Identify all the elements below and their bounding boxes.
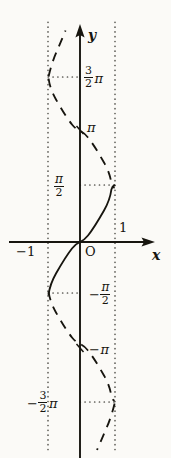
curve-arcsin-principal-solid bbox=[49, 185, 115, 294]
pi-symbol: π bbox=[95, 71, 104, 86]
y-tick-label-neg-three-halves-pi: − 3 2 π bbox=[27, 391, 57, 415]
fraction-three-over-two: 3 2 bbox=[38, 390, 47, 414]
pi-symbol: π bbox=[100, 342, 109, 357]
pi-symbol: π bbox=[49, 396, 58, 411]
x-tick-label-pos-one: 1 bbox=[119, 221, 127, 234]
curve-lower-dashed-continuation bbox=[97, 404, 115, 451]
fraction-three-over-two: 3 2 bbox=[84, 65, 93, 89]
y-tick-label-neg-half-pi: − π 2 bbox=[89, 282, 110, 307]
minus-sign: − bbox=[89, 342, 100, 357]
minus-sign: − bbox=[89, 287, 100, 302]
fraction-pi-over-two: π 2 bbox=[100, 281, 110, 306]
y-tick-label-three-halves-pi: 3 2 π bbox=[84, 66, 103, 90]
y-axis-label: y bbox=[88, 28, 96, 42]
y-tick-label-half-pi: π 2 bbox=[54, 174, 64, 199]
origin-label: O bbox=[85, 245, 96, 258]
curve-upper-dashed-continuation bbox=[49, 31, 66, 77]
fraction-pi-over-two: π 2 bbox=[54, 173, 64, 198]
y-tick-label-neg-pi: −π bbox=[89, 341, 109, 357]
y-tick-label-pi: π bbox=[87, 121, 96, 134]
minus-sign: − bbox=[27, 396, 38, 411]
x-tick-label-neg-one: −1 bbox=[16, 245, 35, 258]
x-axis-label: x bbox=[152, 248, 160, 262]
vertical-guide-lines bbox=[48, 22, 115, 452]
